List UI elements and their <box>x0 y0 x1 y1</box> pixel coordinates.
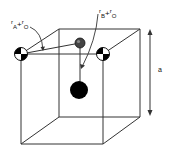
cube-back-face <box>59 29 140 117</box>
a-site-radius-label: rA+rO <box>11 19 28 30</box>
arrow-up-icon <box>148 29 153 35</box>
a-cation-sphere-left <box>15 48 28 61</box>
lattice-parameter-label: a <box>158 66 162 73</box>
arrow-down-icon <box>148 110 153 116</box>
b-cation-sphere <box>70 81 88 99</box>
b-site-radius-label: rB+rO <box>99 8 116 19</box>
a-cation-sphere-right <box>97 48 110 61</box>
cube-front-face <box>21 54 103 144</box>
oxygen-sphere <box>75 38 85 48</box>
